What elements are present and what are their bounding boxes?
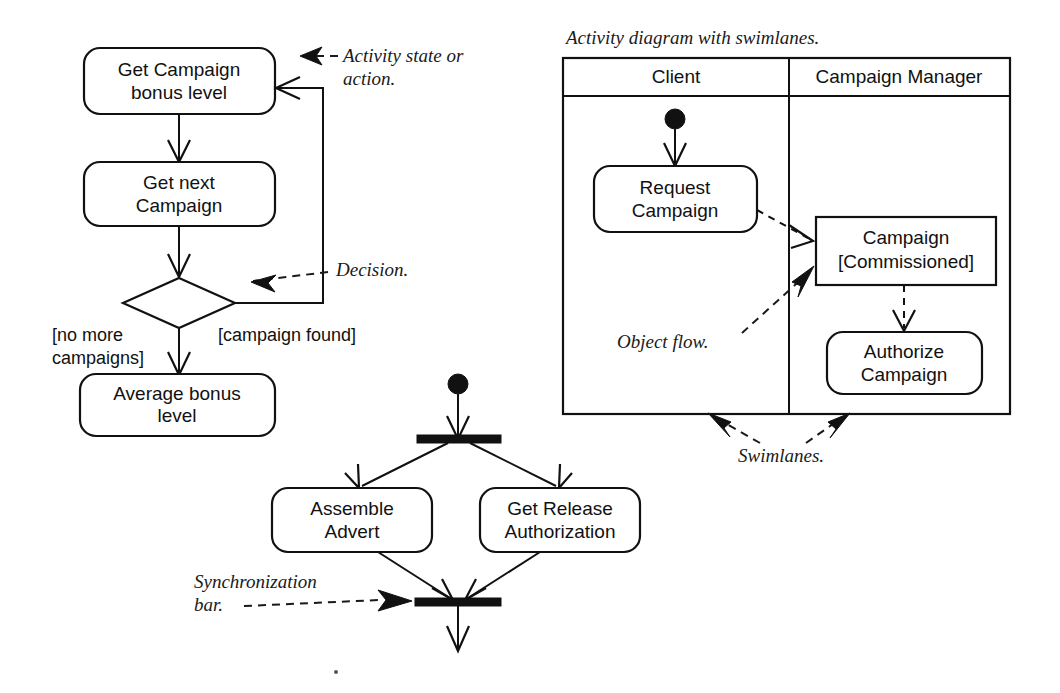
object-node-campaign-commissioned[interactable]: Campaign [Commissioned] bbox=[816, 217, 996, 285]
guard-label-line1: [campaign found] bbox=[218, 325, 356, 345]
activity-label-line1: Get Campaign bbox=[118, 59, 241, 80]
activity-label-line2: level bbox=[157, 405, 196, 426]
annotation-arrowhead-left bbox=[708, 413, 731, 437]
initial-node-circle[interactable] bbox=[448, 374, 468, 394]
flow-initial-to-fork bbox=[447, 394, 469, 439]
annotation-line1: Decision. bbox=[335, 259, 408, 280]
join-synchronization-bar[interactable] bbox=[415, 598, 501, 606]
activity-label-line2: Authorization bbox=[505, 521, 616, 542]
activity-label-line2: bonus level bbox=[131, 82, 227, 103]
activity-get-next-campaign[interactable]: Get next Campaign bbox=[84, 162, 275, 226]
activity-average-bonus-level[interactable]: Average bonus level bbox=[80, 374, 275, 436]
activity-label-line1: Assemble bbox=[310, 498, 393, 519]
activity-label-line2: Campaign bbox=[632, 200, 719, 221]
flow-fork-to-assemble-advert bbox=[345, 443, 448, 488]
annotation-line1: Activity state or bbox=[341, 45, 464, 66]
activity-request-campaign[interactable]: Request Campaign bbox=[594, 166, 757, 232]
scan-artifact-dot bbox=[334, 670, 338, 674]
annotation-arrowhead bbox=[378, 590, 412, 611]
swimlane-activity-diagram: Activity diagram with swimlanes. Client … bbox=[563, 27, 1010, 466]
activity-label-line1: Request bbox=[640, 177, 711, 198]
decision-node[interactable] bbox=[123, 278, 235, 328]
flow-fork-to-get-release-authorization bbox=[470, 443, 572, 488]
fork-synchronization-bar[interactable] bbox=[417, 435, 501, 443]
annotation-decision: Decision. bbox=[251, 259, 408, 292]
guard-no-more-campaigns: [no more campaigns] bbox=[52, 325, 144, 368]
initial-node-circle[interactable] bbox=[665, 109, 685, 129]
activity-label-line1: Get next bbox=[143, 172, 216, 193]
flow-bonus-to-next bbox=[168, 114, 190, 162]
object-label-line1: Campaign bbox=[863, 227, 950, 248]
activity-label-line1: Average bonus bbox=[113, 383, 240, 404]
annotation-line1: Synchronization bbox=[194, 571, 317, 592]
left-activity-diagram: Get Campaign bonus level Get next Campai… bbox=[52, 45, 464, 436]
annotation-arrowhead-right bbox=[828, 413, 850, 438]
annotation-swimlanes: Swimlanes. bbox=[708, 413, 850, 466]
guard-label-line2: campaigns] bbox=[52, 348, 144, 368]
swimlane-diagram-caption: Activity diagram with swimlanes. bbox=[564, 27, 819, 48]
flow-decision-to-average bbox=[168, 328, 190, 375]
decision-diamond-shape bbox=[123, 278, 235, 328]
annotation-line1: Object flow. bbox=[617, 331, 708, 352]
flow-get-release-authorization-to-join bbox=[465, 552, 540, 600]
activity-node-shape bbox=[594, 166, 757, 232]
activity-authorize-campaign[interactable]: Authorize Campaign bbox=[827, 332, 982, 394]
annotation-line2: bar. bbox=[194, 594, 223, 615]
swimlane-title-campaign-manager: Campaign Manager bbox=[816, 66, 984, 87]
activity-get-release-authorization[interactable]: Get Release Authorization bbox=[480, 488, 640, 552]
activity-label-line1: Get Release bbox=[507, 498, 613, 519]
activity-label-line2: Campaign bbox=[136, 195, 223, 216]
flow-assemble-advert-to-join bbox=[378, 552, 453, 600]
activity-assemble-advert[interactable]: Assemble Advert bbox=[272, 488, 432, 552]
annotation-line1: Swimlanes. bbox=[738, 445, 824, 466]
object-label-line2: [Commissioned] bbox=[838, 251, 974, 272]
diagram-canvas: Get Campaign bonus level Get next Campai… bbox=[0, 0, 1060, 693]
activity-node-shape bbox=[84, 48, 275, 114]
flow-next-to-decision bbox=[168, 226, 190, 277]
annotation-line2: action. bbox=[343, 68, 395, 89]
activity-label-line1: Authorize bbox=[864, 341, 944, 362]
guard-campaign-found: [campaign found] bbox=[218, 325, 356, 345]
activity-get-campaign-bonus-level[interactable]: Get Campaign bonus level bbox=[84, 48, 275, 114]
flow-join-outgoing bbox=[447, 606, 469, 651]
annotation-synchronization-bar: Synchronization bar. bbox=[194, 571, 412, 615]
swimlane-title-client: Client bbox=[652, 66, 701, 87]
guard-label-line1: [no more bbox=[52, 325, 123, 345]
annotation-arrowhead bbox=[251, 275, 276, 292]
annotation-activity-state-or-action: Activity state or action. bbox=[300, 45, 464, 89]
activity-label-line2: Advert bbox=[325, 521, 381, 542]
activity-label-line2: Campaign bbox=[861, 364, 948, 385]
